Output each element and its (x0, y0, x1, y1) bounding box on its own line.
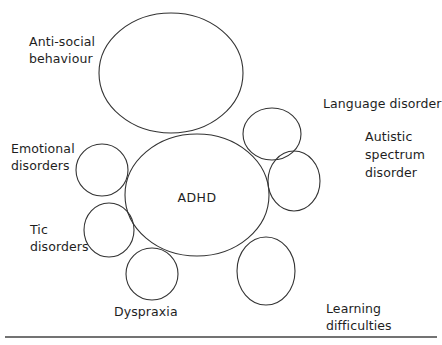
label-line: Autistic (365, 128, 425, 146)
ellipse-learning-difficulties (237, 237, 295, 305)
label-line: spectrum (365, 146, 425, 164)
label-line: disorder (365, 164, 425, 182)
label-line: Tic (30, 221, 89, 238)
label-language-disorder: Language disorder (323, 95, 442, 112)
ellipse-dyspraxia (126, 248, 178, 300)
ellipse-anti-social-behaviour (99, 13, 243, 133)
label-emotional-disorders: Emotional disorders (11, 140, 75, 174)
ellipse-tic-disorders (84, 203, 134, 257)
ellipse-emotional-disorders (76, 144, 128, 196)
label-line: Language disorder (323, 95, 442, 112)
label-autistic-spectrum-disorder: Autistic spectrum disorder (365, 128, 425, 182)
label-line: behaviour (29, 50, 95, 67)
label-line: Learning (326, 300, 392, 317)
label-anti-social-behaviour: Anti-social behaviour (29, 33, 95, 67)
label-line: Dyspraxia (114, 303, 178, 320)
label-line: Emotional (11, 140, 75, 157)
label-line: Anti-social (29, 33, 95, 50)
label-dyspraxia: Dyspraxia (114, 303, 178, 320)
label-line: disorders (30, 238, 89, 255)
ellipse-language-disorder (243, 108, 301, 160)
label-adhd: ADHD (177, 190, 216, 205)
label-learning-difficulties: Learning difficulties (326, 300, 392, 334)
label-tic-disorders: Tic disorders (30, 221, 89, 255)
label-line: disorders (11, 157, 75, 174)
ellipse-autistic-spectrum-disorder (268, 151, 320, 211)
label-line: difficulties (326, 317, 392, 334)
